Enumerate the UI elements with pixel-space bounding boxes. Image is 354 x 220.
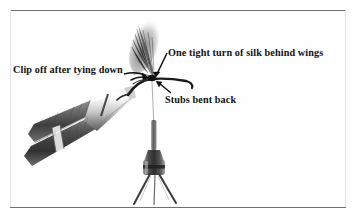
arrow-stubs-bent-back: [156, 81, 171, 93]
arrow-one-tight-turn: [153, 53, 167, 77]
bobbin-leg-left: [134, 174, 150, 204]
bobbin-leg-right: [159, 174, 176, 203]
hook-eye: [186, 81, 192, 88]
annotation-label-clip-off: Clip off after tying down: [13, 65, 123, 75]
bobbin-leg-center: [154, 175, 155, 205]
bobbin-shoulder: [144, 150, 164, 161]
fly-tying-illustration: [0, 0, 354, 220]
bobbin: [134, 120, 176, 205]
hook-shank: [151, 79, 186, 81]
annotation-label-stubs-bent-back: Stubs bent back: [165, 95, 236, 105]
bobbin-tube: [151, 120, 157, 150]
figure-frame: One tight turn of silk behind wings Clip…: [0, 0, 354, 220]
annotation-label-one-tight-turn: One tight turn of silk behind wings: [168, 48, 323, 58]
